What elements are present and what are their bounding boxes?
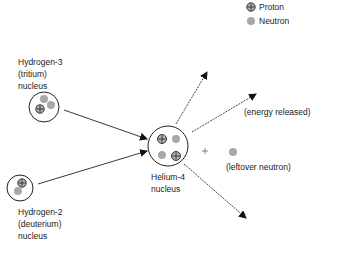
tritium-label-line2: (tritium) — [18, 69, 47, 80]
energy-released-label: (energy released) — [244, 107, 311, 118]
deuterium-label-line3: nucleus — [18, 231, 47, 242]
deuterium-nucleus — [7, 175, 33, 201]
tritium-label-line3: nucleus — [18, 81, 47, 92]
proton-icon — [172, 152, 181, 161]
legend-neutron-label: Neutron — [259, 16, 289, 27]
legend-neutron-icon — [247, 17, 255, 25]
leftover-neutron-icon — [229, 148, 237, 156]
helium-label-line1: Helium-4 — [151, 172, 185, 183]
tritium-nucleus — [29, 92, 59, 122]
leftover-neutron-label: (leftover neutron) — [226, 162, 291, 173]
helium-label-line2: nucleus — [151, 184, 180, 195]
legend-proton-label: Proton — [259, 2, 284, 13]
legend-proton-icon — [247, 3, 255, 11]
proton-icon — [18, 179, 26, 187]
proton-icon — [158, 135, 167, 144]
helium-nucleus — [148, 126, 188, 166]
deuterium-label-line1: Hydrogen-2 — [18, 207, 62, 218]
proton-icon — [36, 105, 44, 113]
deuterium-label-line2: (deuterium) — [18, 219, 61, 230]
tritium-label-line1: Hydrogen-3 — [18, 57, 62, 68]
